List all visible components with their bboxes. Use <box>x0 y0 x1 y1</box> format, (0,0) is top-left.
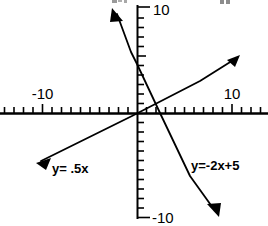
x-axis-label-positive-ten: 10 <box>224 85 241 102</box>
line-shallow-arrowhead-right <box>227 55 240 67</box>
x-axis-ticks <box>5 104 261 113</box>
clipped-header-fragments <box>112 0 230 4</box>
x-axis: -10 10 <box>0 85 268 114</box>
y-axis-label-positive-ten: 10 <box>153 1 170 18</box>
graph-canvas: -10 10 <box>0 0 268 226</box>
line-steep-arrowhead-top <box>110 8 123 22</box>
x-axis-label-negative-ten: -10 <box>32 85 54 102</box>
line-steep-label: y=-2x+5 <box>191 158 239 173</box>
y-axis-label-negative-ten: -10 <box>152 209 174 226</box>
line-shallow-label: y= .5x <box>52 161 89 176</box>
coordinate-plane-figure: -10 10 <box>0 0 268 226</box>
line-steep-arrowhead-bottom <box>207 203 221 217</box>
